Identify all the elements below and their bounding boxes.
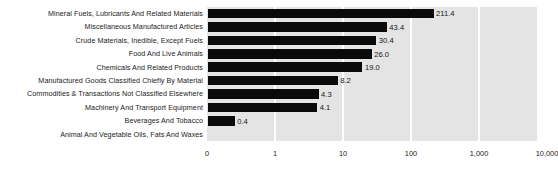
bar-value-label: 43.4 [389, 21, 404, 34]
x-tick-label: 10 [339, 149, 347, 158]
plot-area: 211.443.430.426.019.08.24.34.10.4 [207, 7, 537, 141]
bar-value-label: 26.0 [374, 48, 389, 61]
bar [208, 22, 387, 32]
category-axis: Mineral Fuels, Lubricants And Related Ma… [0, 7, 203, 141]
bar [208, 36, 377, 46]
x-tick-label: 1 [273, 149, 277, 158]
category-label: Machinery And Transport Equipment [0, 101, 203, 114]
bar-row: 4.3 [207, 87, 537, 100]
bar [208, 103, 318, 113]
x-axis: 01101001,00010,000 [207, 141, 537, 161]
bar-value-label: 4.3 [321, 88, 332, 101]
bar-row: 211.4 [207, 7, 537, 20]
category-label: Commodities & Transactions Not Classifie… [0, 87, 203, 100]
bar-value-label: 8.2 [340, 74, 351, 87]
bar-row [207, 128, 537, 141]
bar-value-label: 19.0 [365, 61, 380, 74]
bar-row: 43.4 [207, 20, 537, 33]
bar-value-label: 0.4 [237, 115, 248, 128]
category-label: Manufactured Goods Classified Chiefly By… [0, 74, 203, 87]
category-label: Mineral Fuels, Lubricants And Related Ma… [0, 7, 203, 20]
bar-row: 19.0 [207, 61, 537, 74]
bar-row: 30.4 [207, 34, 537, 47]
bar-value-label: 211.4 [436, 7, 454, 20]
category-label: Chemicals And Related Products [0, 61, 203, 74]
bar [208, 9, 434, 19]
bar-value-label: 30.4 [379, 34, 394, 47]
gridline [546, 7, 548, 141]
x-tick-label: 1,000 [470, 149, 489, 158]
bar-value-label: 4.1 [320, 101, 331, 114]
bar [208, 62, 363, 72]
category-label: Food And Live Animals [0, 47, 203, 60]
bar [208, 116, 235, 126]
x-tick-label: 100 [405, 149, 417, 158]
bar-chart: Mineral Fuels, Lubricants And Related Ma… [0, 0, 558, 177]
bar [208, 89, 319, 99]
category-label: Crude Materials, Inedible, Except Fuels [0, 34, 203, 47]
bar-row: 4.1 [207, 101, 537, 114]
x-tick-label: 0 [205, 149, 209, 158]
bar-row: 0.4 [207, 114, 537, 127]
category-label: Animal And Vegetable Oils, Fats And Waxe… [0, 128, 203, 141]
bar [208, 76, 338, 86]
bar-row: 8.2 [207, 74, 537, 87]
x-tick-label: 10,000 [536, 149, 558, 158]
category-label: Beverages And Tobacco [0, 114, 203, 127]
category-label: Miscellaneous Manufactured Articles [0, 20, 203, 33]
bar [208, 49, 372, 59]
bar-row: 26.0 [207, 47, 537, 60]
